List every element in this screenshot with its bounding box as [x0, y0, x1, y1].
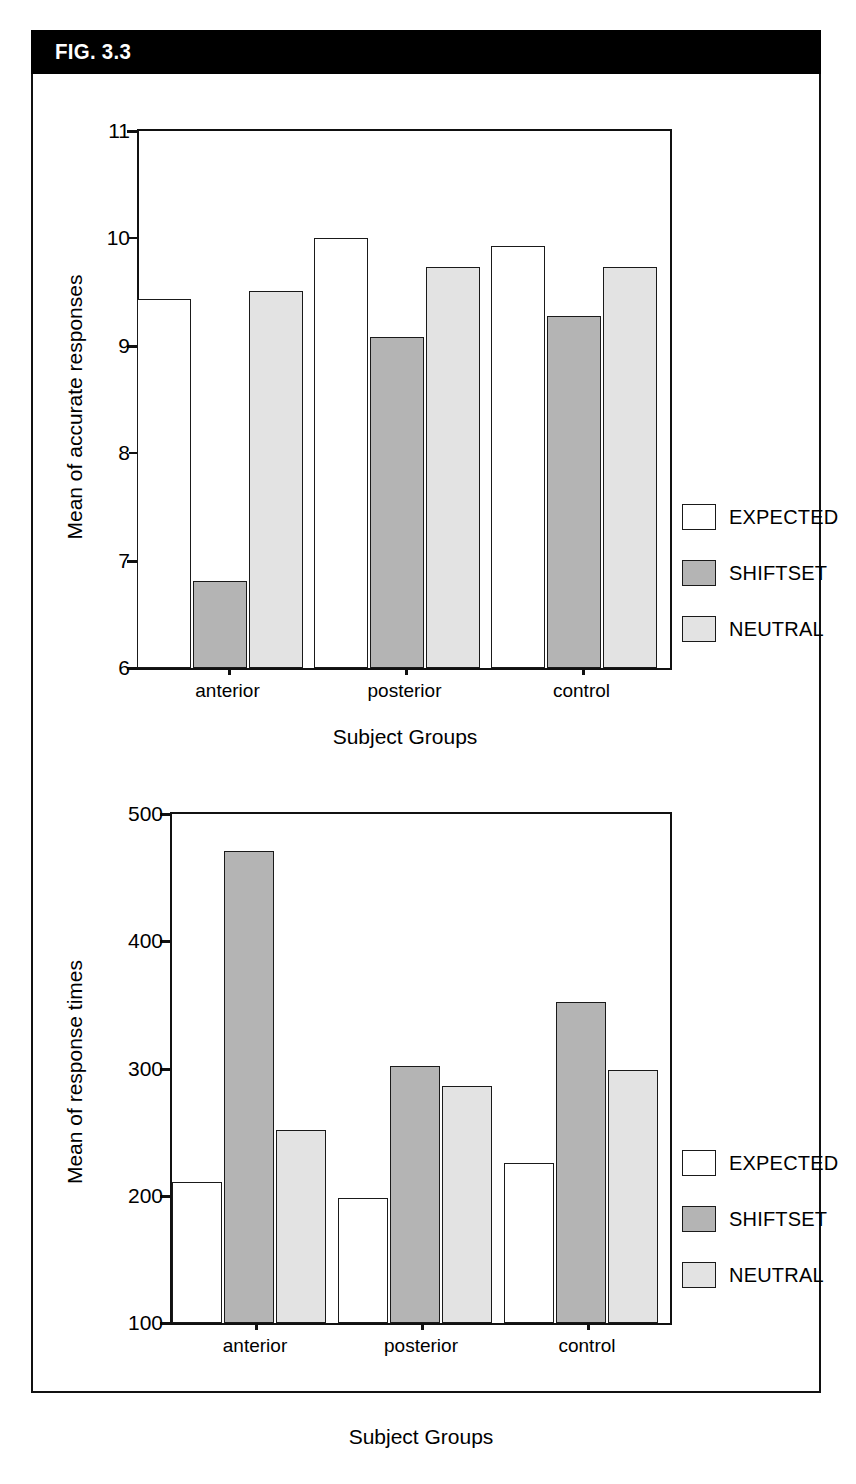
y-axis-tick-label: 400 — [128, 929, 163, 953]
y-axis-tick-label: 500 — [128, 802, 163, 826]
y-axis-tick-label: 200 — [128, 1184, 163, 1208]
legend-swatch-neutral — [682, 1262, 716, 1288]
bar-control-shiftset — [556, 1002, 606, 1323]
legend-label: NEUTRAL — [729, 618, 824, 641]
legend-swatch-neutral — [682, 616, 716, 642]
bar-control-expected — [504, 1163, 554, 1323]
legend-item: SHIFTSET — [682, 558, 838, 588]
bar-posterior-expected — [338, 1198, 388, 1323]
x-axis-tick — [421, 1323, 424, 1330]
bar-control-neutral — [608, 1070, 658, 1323]
x-axis-category-label: anterior — [223, 1335, 287, 1357]
bar-posterior-shiftset — [390, 1066, 440, 1323]
x-axis-category-label: posterior — [384, 1335, 458, 1357]
legend-label: NEUTRAL — [729, 1264, 824, 1287]
legend-item: NEUTRAL — [682, 1260, 838, 1290]
legend-label: SHIFTSET — [729, 1208, 827, 1231]
x-axis-category-label: control — [558, 1335, 615, 1357]
bar-anterior-expected — [172, 1182, 222, 1323]
legend-item: NEUTRAL — [682, 614, 838, 644]
x-axis-title-response-times: Subject Groups — [349, 1425, 494, 1449]
legend-swatch-shiftset — [682, 560, 716, 586]
y-axis-tick-label: 300 — [128, 1057, 163, 1081]
legend-label: EXPECTED — [729, 1152, 838, 1175]
legend-item: SHIFTSET — [682, 1204, 838, 1234]
bar-anterior-shiftset — [224, 851, 274, 1323]
y-axis-title-response-times: Mean of response times — [63, 907, 87, 1237]
figure-page: FIG. 3.3 67891011anteriorposteriorcontro… — [0, 0, 856, 1484]
legend-swatch-expected — [682, 504, 716, 530]
legend-label: SHIFTSET — [729, 562, 827, 585]
bar-anterior-neutral — [276, 1130, 326, 1323]
bar-posterior-neutral — [442, 1086, 492, 1323]
legend-label: EXPECTED — [729, 506, 838, 529]
y-axis-tick-label: 100 — [128, 1311, 163, 1335]
legend-item: EXPECTED — [682, 1148, 838, 1178]
plot-area-response-times: 100200300400500anteriorposteriorcontrol — [170, 812, 672, 1325]
x-axis-tick — [587, 1323, 590, 1330]
legend-swatch-expected — [682, 1150, 716, 1176]
legend-accuracy: EXPECTEDSHIFTSETNEUTRAL — [682, 502, 838, 670]
legend-response-times: EXPECTEDSHIFTSETNEUTRAL — [682, 1148, 838, 1316]
x-axis-tick — [255, 1323, 258, 1330]
legend-swatch-shiftset — [682, 1206, 716, 1232]
legend-item: EXPECTED — [682, 502, 838, 532]
